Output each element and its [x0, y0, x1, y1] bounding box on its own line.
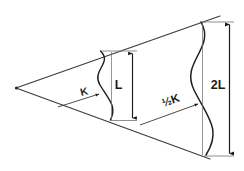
- leader-line-K: [58, 94, 99, 107]
- leader-K: K: [58, 84, 99, 107]
- label-L: L: [115, 78, 123, 92]
- dimension-L: L: [101, 51, 138, 121]
- label-K: K: [79, 84, 90, 98]
- small-wave-group: [98, 51, 113, 120]
- dimension-2L: 2L: [201, 22, 234, 156]
- sine-curve-k: [98, 51, 113, 120]
- wedge-lower-edge: [16, 88, 210, 159]
- leader-line-half-K: [140, 104, 198, 125]
- diagram-canvas: L K 2L ½K: [0, 0, 244, 171]
- wedge-apex-point: [15, 86, 18, 89]
- leader-half-K: ½K: [140, 91, 198, 125]
- technical-diagram: L K 2L ½K: [0, 0, 244, 171]
- label-2L: 2L: [211, 78, 226, 92]
- label-half-K: ½K: [160, 91, 181, 108]
